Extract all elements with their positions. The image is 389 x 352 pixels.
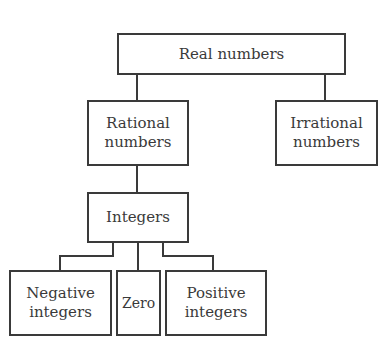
node-label: Integers bbox=[106, 208, 170, 227]
node-integers: Integers bbox=[87, 192, 189, 243]
node-label: Zero bbox=[122, 294, 155, 313]
node-zero: Zero bbox=[116, 270, 161, 336]
node-negative-integers: Negative integers bbox=[9, 270, 112, 336]
node-irrational-numbers: Irrational numbers bbox=[275, 100, 378, 166]
node-label: Real numbers bbox=[179, 45, 285, 64]
node-label: Negative integers bbox=[26, 284, 95, 322]
node-label: Positive integers bbox=[185, 284, 248, 322]
node-positive-integers: Positive integers bbox=[165, 270, 267, 336]
node-label: Rational numbers bbox=[105, 114, 172, 152]
node-real-numbers: Real numbers bbox=[117, 33, 346, 75]
number-classification-diagram: Real numbers Rational numbers Irrational… bbox=[0, 0, 389, 352]
node-label: Irrational numbers bbox=[290, 114, 362, 152]
connector-integers-positive bbox=[163, 242, 213, 270]
connector-integers-negative bbox=[60, 242, 113, 270]
node-rational-numbers: Rational numbers bbox=[87, 100, 189, 166]
